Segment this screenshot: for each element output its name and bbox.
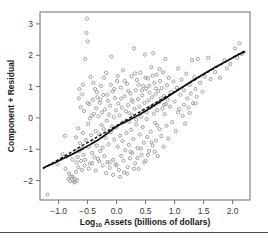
x-tick-label: 2.0 — [227, 206, 239, 216]
x-tick-label: −0.5 — [79, 206, 96, 216]
x-tick-label: 0.5 — [140, 206, 152, 216]
y-tick-label: 0 — [28, 113, 33, 123]
x-tick-label: 0.0 — [111, 206, 123, 216]
y-tick-label: 1 — [28, 82, 33, 92]
x-tick-label: −1.0 — [50, 206, 67, 216]
x-tick-label: 1.0 — [169, 206, 181, 216]
y-tick-label: 2 — [28, 50, 33, 60]
chart-canvas: −1.0−0.50.00.51.01.52.0 −2−10123 Log10 A… — [0, 0, 268, 240]
y-tick-label: −2 — [23, 176, 33, 186]
component-residual-plot: −1.0−0.50.00.51.01.52.0 −2−10123 Log10 A… — [0, 0, 268, 240]
bottom-divider-rule — [0, 232, 268, 233]
x-tick-label: 1.5 — [198, 206, 210, 216]
y-tick-label: 3 — [28, 19, 33, 29]
y-axis-title: Component + Residual — [6, 60, 16, 152]
y-tick-label: −1 — [23, 144, 33, 154]
